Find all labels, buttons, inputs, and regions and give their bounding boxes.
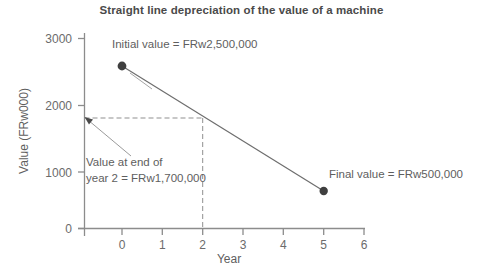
x-axis-title: Year — [217, 252, 241, 266]
initial-value-point — [118, 62, 127, 71]
x-tick-label-5: 5 — [320, 238, 327, 252]
x-axis-ticks — [122, 229, 364, 236]
year2-value-label-line1: Value at end of — [86, 156, 163, 168]
y-tick-label-1000: 1000 — [45, 166, 72, 180]
y-tick-label-0: 0 — [65, 222, 72, 236]
year2-value-leader-line — [88, 120, 131, 156]
y-axis-title: Value (FRw000) — [17, 88, 31, 174]
initial-value-label: Initial value = FRw2,500,000 — [112, 38, 257, 50]
x-tick-label-6: 6 — [361, 238, 368, 252]
x-tick-label-3: 3 — [240, 238, 247, 252]
x-tick-label-4: 4 — [280, 238, 287, 252]
final-value-label: Final value = FRw500,000 — [329, 168, 463, 180]
final-value-point — [320, 187, 328, 195]
chart-plot-area: 3000 2000 1000 0 0 1 2 3 4 5 6 Year Valu… — [0, 0, 483, 267]
year2-value-label-line2: year 2 = FRw1,700,000 — [86, 172, 206, 184]
initial-value-leader-line — [130, 73, 152, 89]
y-axis-ticks — [78, 39, 85, 229]
depreciation-chart: Straight line depreciation of the value … — [0, 0, 483, 267]
x-tick-label-2: 2 — [199, 238, 206, 252]
y-tick-label-3000: 3000 — [45, 32, 72, 46]
y-tick-label-2000: 2000 — [45, 99, 72, 113]
x-tick-label-0: 0 — [119, 238, 126, 252]
x-tick-label-1: 1 — [159, 238, 166, 252]
